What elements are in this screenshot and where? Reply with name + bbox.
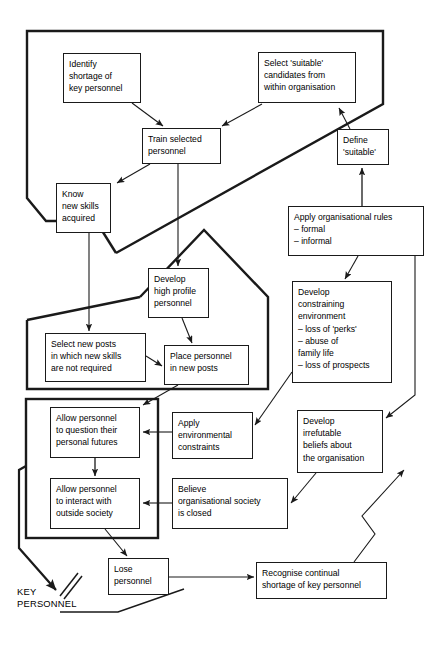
node-apply-environmental-constraints[interactable]: Apply environmental constraints	[172, 412, 253, 459]
node-recognise-shortage[interactable]: Recognise continual shortage of key pers…	[256, 562, 387, 599]
node-lose-personnel[interactable]: Lose personnel	[108, 558, 169, 595]
node-place-personnel[interactable]: Place personnel in new posts	[164, 345, 249, 385]
node-select-new-posts[interactable]: Select new posts in which new skills are…	[45, 333, 146, 382]
node-select-candidates[interactable]: Select 'suitable' candidates from within…	[258, 52, 356, 103]
flowchart-diagram: Identify shortage of key personnel Selec…	[0, 0, 441, 645]
node-define-suitable[interactable]: Define 'suitable'	[337, 129, 389, 165]
node-know-new-skills[interactable]: Know new skills acquired	[56, 183, 111, 233]
node-identify-shortage[interactable]: Identify shortage of key personnel	[63, 53, 141, 103]
node-apply-org-rules[interactable]: Apply organisational rules – formal – in…	[288, 206, 424, 256]
edge-train-to-know	[117, 164, 150, 183]
node-develop-constraining-environment[interactable]: Develop constraining environment – loss …	[292, 281, 392, 383]
key-personnel-label: KEY PERSONNEL	[17, 586, 77, 610]
edge-irrefutable-to-believe	[291, 473, 316, 503]
edge-rules-to-constraining	[345, 256, 358, 279]
edge-develophp-to-place	[182, 318, 192, 343]
node-train-personnel[interactable]: Train selected personnel	[142, 128, 221, 164]
mid-house-left-edge	[27, 297, 140, 320]
node-develop-high-profile[interactable]: Develop high profile personnel	[148, 268, 209, 318]
edge-selectposts-to-place	[146, 356, 162, 366]
edge-recognise-to-select-candidates	[354, 470, 404, 562]
node-allow-personnel-question[interactable]: Allow personnel to question their person…	[50, 407, 140, 458]
edge-select-to-train	[222, 104, 262, 126]
node-believe-society-closed[interactable]: Believe organisational society is closed	[172, 478, 288, 529]
edge-identify-to-train	[132, 103, 163, 126]
node-develop-irrefutable-beliefs[interactable]: Develop irrefutable beliefs about the or…	[297, 410, 383, 473]
edge-allowinteract-to-lose	[105, 529, 127, 556]
node-allow-personnel-interact[interactable]: Allow personnel to interact with outside…	[50, 478, 140, 529]
edge-constraining-to-envconstraints	[255, 372, 292, 425]
